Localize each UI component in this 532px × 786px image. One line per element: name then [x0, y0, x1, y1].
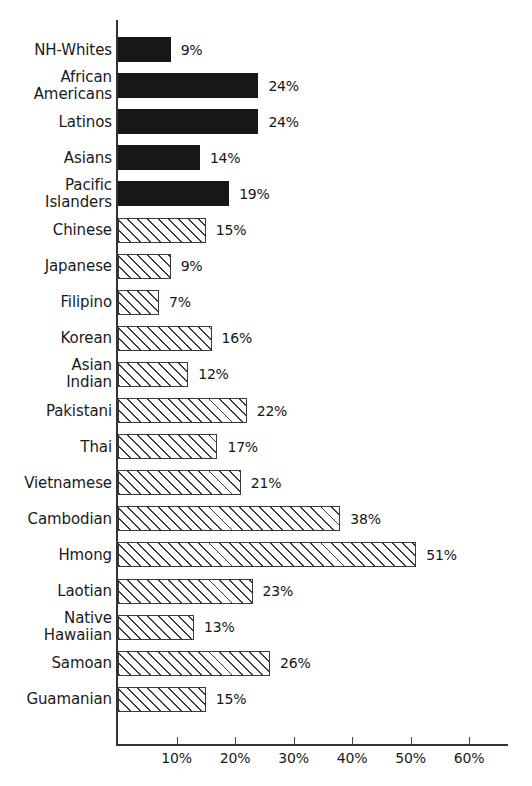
category-label: Pakistani: [0, 402, 112, 419]
bar-value-label: 9%: [181, 258, 203, 274]
bar: [118, 254, 171, 279]
bar: [118, 651, 270, 676]
x-axis-tick-label: 30%: [278, 750, 309, 766]
bar-chart: 10%20%30%40%50%60% NH-Whites9%African Am…: [0, 0, 532, 786]
bar-row: Asians14%: [0, 145, 532, 170]
bar: [118, 181, 229, 206]
bar: [118, 290, 159, 315]
category-label: Native Hawaiian: [0, 610, 112, 644]
x-axis-tick: [411, 737, 412, 745]
category-label: Pacific Islanders: [0, 177, 112, 211]
bar: [118, 470, 241, 495]
bar-row: Guamanian15%: [0, 687, 532, 712]
x-axis-tick: [177, 737, 178, 745]
bar-value-label: 24%: [268, 78, 299, 94]
category-label: Latinos: [0, 113, 112, 130]
category-label: Samoan: [0, 655, 112, 672]
category-label: NH-Whites: [0, 41, 112, 58]
bar: [118, 434, 217, 459]
bar: [118, 542, 416, 567]
bar-row: Asian Indian12%: [0, 362, 532, 387]
bar-row: Native Hawaiian13%: [0, 615, 532, 640]
bar-row: Laotian23%: [0, 579, 532, 604]
category-label: Filipino: [0, 294, 112, 311]
bar-value-label: 15%: [216, 691, 247, 707]
category-label: Japanese: [0, 258, 112, 275]
x-axis-tick-label: 50%: [395, 750, 426, 766]
bar-value-label: 7%: [169, 294, 191, 310]
bar: [118, 37, 171, 62]
bar-value-label: 19%: [239, 186, 270, 202]
category-label: Vietnamese: [0, 474, 112, 491]
bar-row: Samoan26%: [0, 651, 532, 676]
bar-row: Latinos24%: [0, 109, 532, 134]
bar-value-label: 23%: [263, 583, 294, 599]
bar-row: Japanese9%: [0, 254, 532, 279]
category-label: Laotian: [0, 583, 112, 600]
bar: [118, 73, 258, 98]
category-label: Asians: [0, 149, 112, 166]
bar: [118, 615, 194, 640]
bar-value-label: 26%: [280, 655, 311, 671]
bar-value-label: 13%: [204, 619, 235, 635]
category-label: Cambodian: [0, 510, 112, 527]
bar-row: Pacific Islanders19%: [0, 181, 532, 206]
x-axis-tick: [235, 737, 236, 745]
bar-row: Pakistani22%: [0, 398, 532, 423]
bar-value-label: 15%: [216, 222, 247, 238]
bar: [118, 145, 200, 170]
x-axis-tick-label: 20%: [220, 750, 251, 766]
category-label: African Americans: [0, 69, 112, 103]
bar-value-label: 12%: [198, 366, 229, 382]
bar-row: Vietnamese21%: [0, 470, 532, 495]
category-label: Asian Indian: [0, 357, 112, 391]
bar: [118, 506, 340, 531]
x-axis-tick-label: 60%: [454, 750, 485, 766]
category-label: Guamanian: [0, 691, 112, 708]
bar: [118, 362, 188, 387]
bar-value-label: 16%: [222, 330, 253, 346]
x-axis-tick: [294, 737, 295, 745]
bar: [118, 579, 253, 604]
bar: [118, 687, 206, 712]
x-axis-tick-label: 10%: [161, 750, 192, 766]
bar: [118, 109, 258, 134]
bar: [118, 326, 212, 351]
bar-value-label: 22%: [257, 403, 288, 419]
bar-row: Korean16%: [0, 326, 532, 351]
bar: [118, 398, 247, 423]
bar-row: Chinese15%: [0, 218, 532, 243]
x-axis-tick: [469, 737, 470, 745]
x-axis-tick: [352, 737, 353, 745]
bar-value-label: 24%: [268, 114, 299, 130]
bar-row: Filipino7%: [0, 290, 532, 315]
category-label: Hmong: [0, 546, 112, 563]
category-label: Thai: [0, 438, 112, 455]
x-axis-line: [116, 744, 508, 746]
bar-row: NH-Whites9%: [0, 37, 532, 62]
bar-value-label: 14%: [210, 150, 241, 166]
bar-value-label: 17%: [227, 439, 258, 455]
category-label: Chinese: [0, 222, 112, 239]
bar-value-label: 21%: [251, 475, 282, 491]
bar-row: Cambodian38%: [0, 506, 532, 531]
bar-value-label: 51%: [426, 547, 457, 563]
bar-value-label: 38%: [350, 511, 381, 527]
category-label: Korean: [0, 330, 112, 347]
bar-row: Thai17%: [0, 434, 532, 459]
x-axis-tick-label: 40%: [337, 750, 368, 766]
bar-value-label: 9%: [181, 42, 203, 58]
bar-row: Hmong51%: [0, 542, 532, 567]
bar: [118, 218, 206, 243]
bar-row: African Americans24%: [0, 73, 532, 98]
